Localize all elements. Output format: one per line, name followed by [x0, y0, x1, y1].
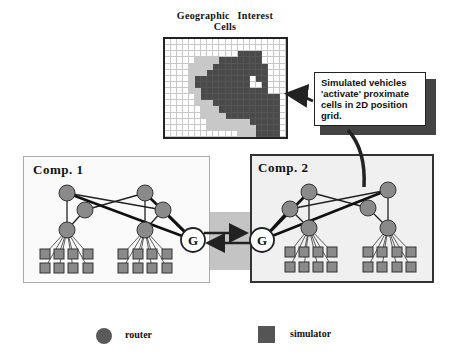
- router-node: [155, 202, 171, 218]
- router-node: [380, 220, 396, 236]
- legend-simulator-icon: [258, 326, 275, 343]
- legend-router-icon: [96, 328, 112, 344]
- simulator-node: [406, 247, 416, 257]
- router-node: [59, 222, 75, 238]
- simulator-node: [299, 247, 309, 257]
- simulator-node: [299, 262, 309, 272]
- simulator-node: [54, 263, 64, 273]
- simulator-node: [377, 262, 387, 272]
- simulator-node: [363, 247, 373, 257]
- simulator-node: [285, 247, 295, 257]
- callout-connector: [348, 130, 364, 187]
- simulator-node: [133, 263, 143, 273]
- network-diagram: G G: [0, 0, 454, 360]
- simulator-node: [162, 249, 172, 259]
- gateway-node-comp2: G: [250, 228, 274, 252]
- legend-simulator-label: simulator: [290, 328, 331, 339]
- gateway-node-comp1: G: [181, 228, 205, 252]
- simulator-node: [83, 263, 93, 273]
- simulator-node: [313, 247, 323, 257]
- simulator-node: [285, 262, 295, 272]
- callout-arrow: [290, 94, 313, 101]
- simulator-node: [392, 247, 402, 257]
- simulator-node: [313, 262, 323, 272]
- simulator-node: [54, 249, 64, 259]
- simulator-node: [147, 249, 157, 259]
- simulator-node: [40, 263, 50, 273]
- router-node: [360, 200, 376, 216]
- simulator-node: [118, 249, 128, 259]
- legend-router-label: router: [125, 329, 152, 340]
- simulator-node: [118, 263, 128, 273]
- simulator-node: [327, 247, 337, 257]
- simulator-node: [392, 262, 402, 272]
- simulator-node: [133, 249, 143, 259]
- router-node: [282, 201, 298, 217]
- router-node: [59, 185, 75, 201]
- gateway-label: G: [188, 233, 198, 248]
- simulator-node: [68, 263, 78, 273]
- simulator-node: [406, 262, 416, 272]
- simulator-node: [68, 249, 78, 259]
- simulator-node: [162, 263, 172, 273]
- simulator-node: [147, 263, 157, 273]
- simulator-node: [363, 262, 373, 272]
- router-node: [301, 220, 317, 236]
- simulator-node: [377, 247, 387, 257]
- router-node: [301, 184, 317, 200]
- simulator-node: [83, 249, 93, 259]
- router-node: [380, 182, 396, 198]
- router-node: [77, 202, 93, 218]
- simulator-node: [327, 262, 337, 272]
- router-node: [137, 185, 153, 201]
- router-node: [137, 222, 153, 238]
- gateway-label: G: [257, 233, 267, 248]
- simulator-node: [40, 249, 50, 259]
